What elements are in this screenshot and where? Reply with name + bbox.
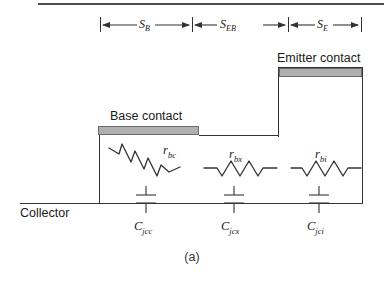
resistor-rbc-label: rbc (163, 144, 176, 159)
resistor-rbx-sub: bx (234, 154, 242, 164)
figure-caption: (a) (0, 250, 384, 264)
collector-label: Collector (20, 207, 69, 220)
emitter-contact-label: Emitter contact (277, 52, 360, 65)
dimension-label-se: SE (317, 18, 328, 33)
resistor-rbi-symbol (291, 160, 371, 182)
resistor-rbx-label: rbx (229, 148, 242, 163)
capacitor-cjci-label: Cjci (307, 220, 324, 235)
base-contact-bar (98, 126, 199, 135)
bjt-cross-section-figure: SB SEB SE Emitter contact Base contact C… (0, 0, 384, 281)
resistor-rbi-sub: bi (320, 154, 327, 164)
resistor-rbi-label: rbi (315, 148, 327, 163)
dimension-label-seb: SEB (220, 18, 236, 33)
capacitor-cjci-sub: jci (315, 226, 324, 236)
capacitor-cjcc-symbol (132, 186, 172, 220)
capacitor-cjci-symbol (305, 186, 345, 220)
capacitor-cjcx-label: Cjcx (221, 220, 239, 235)
body-top-edge (199, 135, 279, 136)
dimension-label-se-sub: E (323, 24, 328, 33)
base-contact-label: Base contact (110, 110, 182, 123)
emitter-contact-bar (279, 68, 362, 77)
capacitor-cjcx-sub: jcx (229, 226, 239, 236)
capacitor-cjcc-sub: jcc (142, 226, 152, 236)
dimension-label-sb: SB (139, 18, 150, 33)
resistor-rbc-symbol (105, 140, 195, 190)
collector-line (20, 203, 99, 204)
capacitor-cjcc-label: Cjcc (134, 220, 152, 235)
emitter-block-outline (278, 67, 363, 137)
resistor-rbx-symbol (204, 160, 284, 182)
dimension-label-sb-sub: B (145, 24, 150, 33)
capacitor-cjcx-symbol (220, 186, 260, 220)
top-divider-rule (38, 3, 384, 5)
body-left-wall (99, 135, 100, 203)
resistor-rbc-sub: bc (168, 150, 176, 160)
dimension-label-seb-sub: EB (226, 24, 236, 33)
